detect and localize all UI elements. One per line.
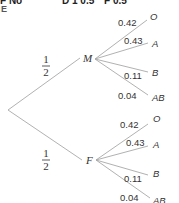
prob-m-ab: 0.04 [118, 90, 137, 101]
outcome-f-a: A [152, 139, 159, 150]
outcome-m-o: O [150, 11, 158, 22]
prob-m-b: 0.11 [124, 70, 142, 81]
branch-f-a [96, 146, 148, 160]
outcome-m-a: A [151, 38, 158, 49]
outcome-f-b: B [153, 168, 160, 179]
outcome-m-b: B [152, 67, 159, 78]
fraction-root-m: 1 2 [42, 53, 50, 78]
prob-m-o: 0.42 [118, 17, 137, 28]
outcome-f-ab: AB [152, 195, 166, 203]
prob-f-ab: 0.04 [120, 192, 139, 203]
outcome-f-o: O [153, 113, 161, 124]
prob-f-b: 0.11 [124, 173, 142, 184]
probability-tree-diagram: 1 2 1 2 M 0.42 0.43 0.11 0.04 O A B AB F… [0, 0, 179, 203]
prob-f-o: 0.42 [120, 119, 139, 130]
prob-m-a: 0.43 [124, 35, 143, 46]
outcome-m-ab: AB [151, 92, 165, 103]
fraction-numerator: 1 [43, 147, 49, 159]
node-m: M [82, 52, 93, 64]
node-f: F [85, 154, 93, 166]
fraction-denominator: 2 [43, 160, 49, 172]
fraction-root-f: 1 2 [42, 147, 50, 172]
fraction-numerator: 1 [43, 53, 49, 65]
prob-f-a: 0.43 [126, 137, 145, 148]
fraction-denominator: 2 [43, 66, 49, 78]
